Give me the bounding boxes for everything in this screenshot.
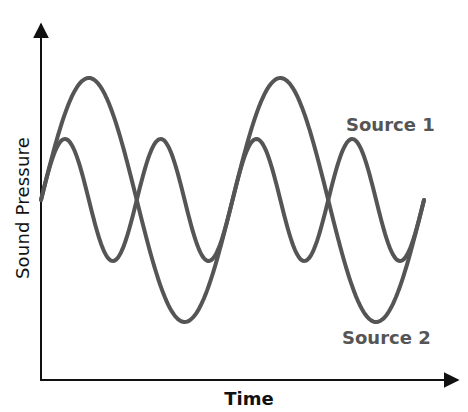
source-2-label: Source 2 <box>342 327 431 348</box>
source-1-wave <box>41 139 424 261</box>
y-axis-label: Sound Pressure <box>12 137 33 279</box>
x-axis-label: Time <box>224 388 273 409</box>
source-1-label: Source 1 <box>346 114 435 135</box>
wave-chart <box>0 0 468 412</box>
